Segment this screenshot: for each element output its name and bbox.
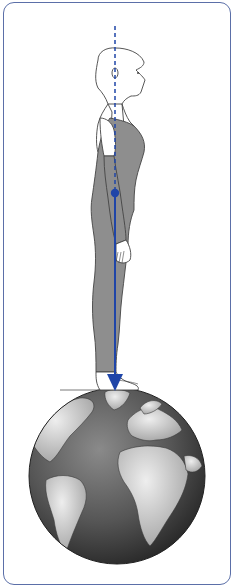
posture-diagram (0, 0, 235, 588)
globe-icon (29, 388, 205, 564)
human-figure (91, 48, 145, 390)
